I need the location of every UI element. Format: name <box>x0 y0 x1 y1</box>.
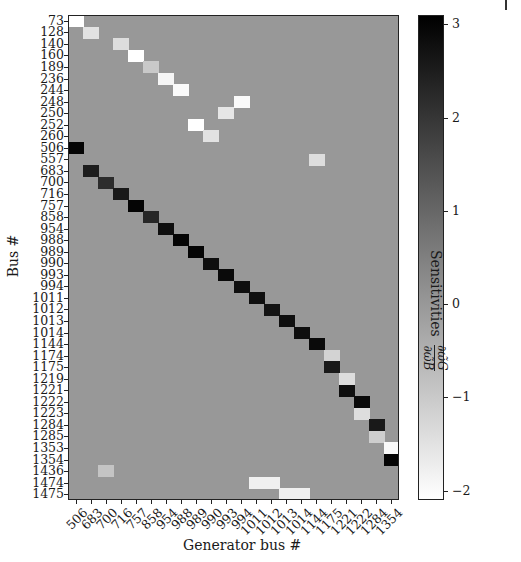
heatmap-cell <box>98 177 114 189</box>
colorbar-label-text: Sensitivities <box>428 250 444 337</box>
y-tick-mark <box>64 67 68 68</box>
y-tick-label: 1475 <box>32 488 64 500</box>
y-tick-mark <box>64 448 68 449</box>
heatmap-cell <box>309 338 325 350</box>
y-tick-mark <box>64 55 68 56</box>
heatmap-cell <box>203 130 219 142</box>
colorbar-tick-label: −2 <box>452 483 470 498</box>
heatmap-cell <box>128 200 144 212</box>
y-tick-mark <box>64 298 68 299</box>
y-tick-mark <box>64 136 68 137</box>
y-tick-mark <box>64 483 68 484</box>
x-tick-mark <box>226 500 227 504</box>
x-tick-mark <box>256 500 257 504</box>
heatmap-cell <box>68 142 84 154</box>
y-tick-mark <box>64 333 68 334</box>
heatmap-cell <box>158 73 174 85</box>
colorbar-label: Sensitivities ∂ω̃G ∂ω̃B <box>421 250 448 371</box>
y-tick-mark <box>64 79 68 80</box>
colorbar-label-fraction: ∂ω̃G ∂ω̃B <box>421 345 448 371</box>
colorbar-tick-label: 1 <box>452 203 460 218</box>
heatmap-cell <box>218 269 234 281</box>
heatmap-cell <box>384 442 399 454</box>
y-tick-mark <box>64 379 68 380</box>
heatmap-cell <box>203 258 219 270</box>
y-tick-mark <box>64 460 68 461</box>
heatmap-cell <box>369 419 385 431</box>
x-tick-mark <box>286 500 287 504</box>
y-tick-mark <box>64 413 68 414</box>
x-tick-mark <box>106 500 107 504</box>
x-tick-mark <box>121 500 122 504</box>
heatmap-cell <box>113 38 129 50</box>
x-tick-mark <box>136 500 137 504</box>
y-tick-mark <box>64 309 68 310</box>
x-tick-mark <box>271 500 272 504</box>
heatmap-cell <box>264 477 280 489</box>
y-tick-mark <box>64 471 68 472</box>
y-tick-mark <box>64 148 68 149</box>
heatmap-cell <box>158 223 174 235</box>
x-tick-mark <box>166 500 167 504</box>
heatmap-cell <box>188 246 204 258</box>
heatmap-cell <box>113 188 129 200</box>
y-tick-mark <box>64 344 68 345</box>
x-tick-mark <box>361 500 362 504</box>
x-tick-mark <box>316 500 317 504</box>
heatmap-cell <box>354 408 370 420</box>
x-tick-mark <box>331 500 332 504</box>
heatmap-cell <box>143 211 159 223</box>
heatmap-cell <box>324 350 340 362</box>
colorbar-tick-mark <box>444 24 448 25</box>
heatmap-cell <box>279 488 295 500</box>
heatmap-cell <box>249 477 265 489</box>
heatmap-cell <box>294 488 310 500</box>
colorbar-tick-label: 3 <box>452 16 460 31</box>
heatmap-cell <box>339 373 355 385</box>
heatmap-cell <box>128 50 144 62</box>
y-tick-mark <box>64 32 68 33</box>
y-tick-mark <box>64 425 68 426</box>
heatmap-cell <box>324 361 340 373</box>
x-tick-mark <box>376 500 377 504</box>
colorbar-tick-mark <box>444 491 448 492</box>
y-tick-mark <box>64 275 68 276</box>
fraction-denominator: ∂ω̃B <box>421 345 434 371</box>
y-tick-mark <box>64 436 68 437</box>
heatmap-cell <box>279 315 295 327</box>
heatmap-cell <box>309 154 325 166</box>
x-tick-mark <box>211 500 212 504</box>
heatmap-cell <box>98 465 114 477</box>
y-tick-mark <box>64 21 68 22</box>
y-tick-mark <box>64 321 68 322</box>
colorbar-tick-label: 2 <box>452 110 460 125</box>
x-tick-mark <box>151 500 152 504</box>
heatmap-plot-area <box>68 15 399 500</box>
y-tick-mark <box>64 240 68 241</box>
y-tick-mark <box>64 286 68 287</box>
heatmap-cell <box>83 27 99 39</box>
heatmap-cell <box>188 119 204 131</box>
y-tick-mark <box>64 252 68 253</box>
y-tick-mark <box>64 206 68 207</box>
colorbar-tick-mark <box>444 397 448 398</box>
y-tick-mark <box>64 402 68 403</box>
x-axis-label: Generator bus # <box>183 537 301 553</box>
y-tick-mark <box>64 171 68 172</box>
x-tick-mark <box>76 500 77 504</box>
corner-mark <box>505 0 507 10</box>
y-tick-mark <box>64 356 68 357</box>
y-tick-mark <box>64 102 68 103</box>
heatmap-cell <box>384 454 399 466</box>
heatmap-cell <box>143 61 159 73</box>
x-tick-mark <box>91 500 92 504</box>
y-tick-mark <box>64 90 68 91</box>
heatmap-cell <box>354 396 370 408</box>
y-tick-mark <box>64 367 68 368</box>
heatmap-cell <box>173 234 189 246</box>
fraction-numerator: ∂ω̃G <box>434 345 448 371</box>
y-tick-mark <box>64 113 68 114</box>
y-tick-mark <box>64 159 68 160</box>
x-tick-mark <box>241 500 242 504</box>
x-tick-mark <box>391 500 392 504</box>
